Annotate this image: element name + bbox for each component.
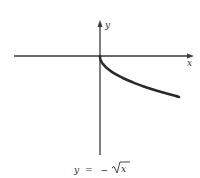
caption-minus: − [100, 165, 108, 175]
caption: y = − x [73, 162, 130, 175]
x-axis-label: x [187, 58, 192, 68]
caption-radicand: x [121, 164, 126, 174]
caption-eq: = [85, 165, 93, 175]
y-axis-arrow-icon [98, 20, 103, 27]
function-curve [100, 56, 179, 97]
svg-text:y = −: y = − [73, 165, 108, 175]
y-axis-label: y [104, 20, 111, 30]
caption-lhs: y [73, 165, 80, 175]
function-graph: x y y = − x [0, 0, 200, 178]
